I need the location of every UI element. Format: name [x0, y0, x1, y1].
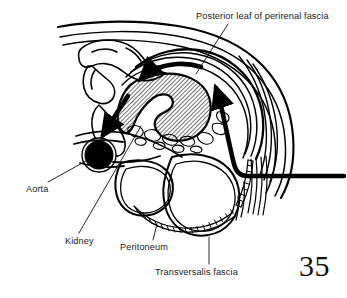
bowel-loop-right-inner — [168, 161, 235, 231]
label-kidney: Kidney — [65, 237, 94, 246]
page-number: 35 — [299, 251, 330, 281]
label-peritoneum: Peritoneum — [120, 243, 168, 252]
peritoneum-line — [134, 206, 235, 233]
figure-page: Posterior leaf of perirenal fascia Aorta… — [0, 0, 347, 298]
vertebral-process — [83, 66, 114, 104]
label-aorta: Aorta — [26, 185, 48, 194]
arrow-flank-right — [216, 88, 344, 176]
leader-aorta — [48, 156, 95, 182]
leader-peritoneum — [153, 224, 157, 240]
label-transversalis-fascia: Transversalis fascia — [155, 268, 238, 277]
anatomical-diagram — [0, 0, 347, 298]
kidney — [118, 74, 211, 141]
label-posterior-leaf-of-perirenal-fascia: Posterior leaf of perirenal fascia — [196, 12, 329, 21]
